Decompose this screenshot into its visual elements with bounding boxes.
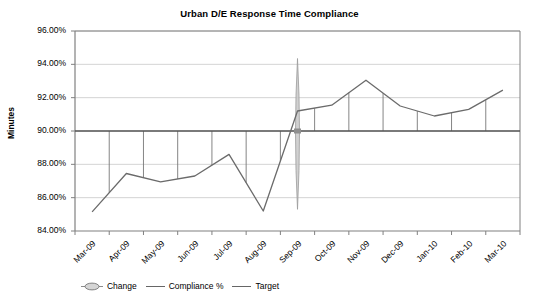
change-lens-icon — [81, 282, 103, 291]
change-marker — [294, 59, 301, 210]
legend-label-compliance: Compliance % — [169, 281, 224, 291]
legend-item-target[interactable]: Target — [232, 281, 279, 291]
chart-container: Urban D/E Response Time Compliance Minut… — [0, 0, 539, 307]
plot-area — [0, 0, 539, 307]
x-axis-ticks — [75, 231, 520, 235]
line-icon — [146, 286, 165, 287]
legend-label-change: Change — [107, 281, 137, 291]
chart-legend: Change Compliance % Target — [0, 281, 360, 291]
legend-item-compliance[interactable]: Compliance % — [146, 281, 224, 291]
legend-label-target: Target — [255, 281, 279, 291]
line-icon — [232, 286, 251, 287]
legend-item-change[interactable]: Change — [81, 281, 137, 291]
